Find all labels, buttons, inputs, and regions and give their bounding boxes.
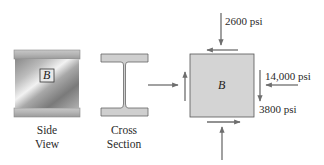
cross-section-caption: Cross Section [94, 123, 154, 151]
vertical-normal-stress-label: 2600 psi [225, 15, 263, 27]
side-view-beam [14, 50, 80, 117]
cross-section-caption-line2: Section [94, 137, 154, 151]
side-view-caption-line2: View [17, 137, 77, 151]
side-view-caption: Side View [17, 123, 77, 151]
side-view-caption-line1: Side [17, 123, 77, 137]
horizontal-normal-stress-label: 14,000 psi [265, 70, 311, 82]
i-beam-cross-section [101, 54, 148, 116]
stress-element-label: B [218, 78, 225, 93]
side-view-element-label: B [43, 68, 50, 83]
shear-stress-label: 3800 psi [259, 103, 297, 115]
cross-section-caption-line1: Cross [94, 123, 154, 137]
